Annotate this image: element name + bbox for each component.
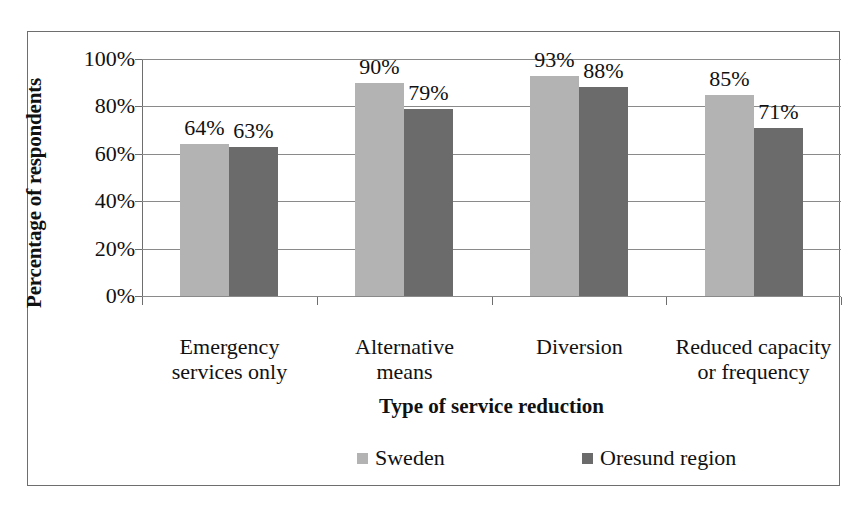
bar-oresund-region-2: [579, 87, 628, 296]
category-label-line: Diversion: [492, 335, 667, 360]
category-label: Emergencyservices only: [142, 335, 317, 384]
bar-value-label: 88%: [566, 60, 641, 82]
category-label-line: Reduced capacity: [666, 335, 841, 360]
bar-sweden-3: [705, 95, 754, 296]
y-axis-title: Percentage of respondents: [22, 78, 48, 308]
x-tick-mark: [317, 297, 318, 305]
bar-oresund-region-1: [404, 109, 453, 296]
category-label-line: or frequency: [666, 360, 841, 385]
category-label: Reduced capacityor frequency: [666, 335, 841, 384]
bar-value-label: 71%: [741, 101, 816, 123]
legend-swatch-icon: [357, 453, 368, 464]
x-tick-mark: [492, 297, 493, 305]
legend-item-sweden[interactable]: Sweden: [357, 447, 445, 469]
y-axis-line: [142, 59, 143, 297]
category-label: Alternativemeans: [317, 335, 492, 384]
x-axis-title: Type of service reduction: [142, 394, 841, 419]
bar-value-label: 85%: [692, 68, 767, 90]
bar-value-label: 79%: [391, 82, 466, 104]
y-tick-label: 20%: [65, 238, 135, 260]
y-tick-mark: [135, 249, 142, 250]
y-tick-label: 80%: [65, 95, 135, 117]
category-label: Diversion: [492, 335, 667, 360]
bar-value-label: 90%: [342, 56, 417, 78]
plot-inner: 0%20%40%60%80%100% 64%63%90%79%93%88%85%…: [142, 59, 841, 296]
bar-value-label: 63%: [216, 120, 291, 142]
y-tick-mark: [135, 154, 142, 155]
plot-area: 0%20%40%60%80%100% 64%63%90%79%93%88%85%…: [142, 59, 841, 296]
y-tick-mark: [135, 59, 142, 60]
legend-label: Sweden: [375, 447, 445, 469]
category-label-line: services only: [142, 360, 317, 385]
x-tick-mark: [666, 297, 667, 305]
y-tick-label: 40%: [65, 190, 135, 212]
x-tick-mark: [142, 297, 143, 305]
legend-swatch-icon: [582, 453, 593, 464]
y-tick-label: 60%: [65, 143, 135, 165]
x-tick-mark: [841, 297, 842, 305]
bar-oresund-region-3: [754, 128, 803, 296]
y-tick-label: 0%: [65, 285, 135, 307]
y-tick-label: 100%: [65, 48, 135, 70]
category-label-line: means: [317, 360, 492, 385]
gridline: [142, 59, 841, 60]
y-tick-mark: [135, 201, 142, 202]
bar-sweden-1: [355, 83, 404, 296]
bar-sweden-0: [180, 144, 229, 296]
y-tick-mark: [135, 106, 142, 107]
category-label-line: Emergency: [142, 335, 317, 360]
chart-legend: SwedenOresund region: [142, 447, 841, 477]
legend-label: Oresund region: [600, 447, 736, 469]
chart-figure-frame: Percentage of respondents 0%20%40%60%80%…: [27, 31, 840, 486]
category-label-line: Alternative: [317, 335, 492, 360]
legend-item-oresund-region[interactable]: Oresund region: [582, 447, 736, 469]
bar-oresund-region-0: [229, 147, 278, 296]
bar-sweden-2: [530, 76, 579, 296]
y-tick-mark: [135, 296, 142, 297]
